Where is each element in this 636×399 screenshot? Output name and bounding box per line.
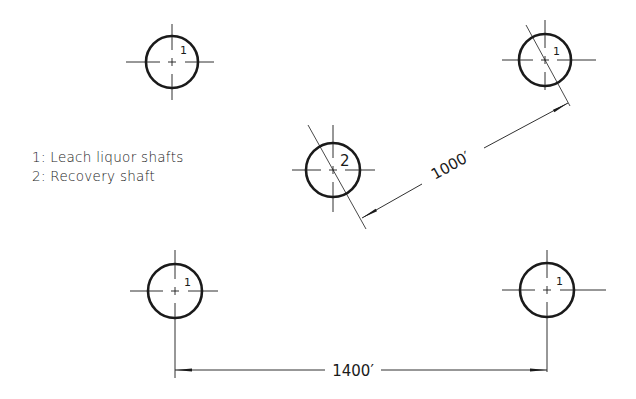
dimension-label-1000: 1000′ xyxy=(428,147,474,183)
shaft-label: 1 xyxy=(180,44,187,57)
shaft-bottom-right: 1 xyxy=(502,250,606,372)
shaft-center-recovery: 2 xyxy=(292,125,375,229)
shaft-label: 2 xyxy=(340,152,350,170)
shaft-label: 1 xyxy=(184,276,191,289)
shaft-layout-diagram: 1 1 2 1 xyxy=(0,0,636,399)
dimension-label-1400: 1400′ xyxy=(332,362,374,380)
shaft-label: 1 xyxy=(553,45,560,58)
dimension-1400: 1400′ xyxy=(175,362,547,380)
legend-item-leach-liquor-shafts: 1: Leach liquor shafts xyxy=(32,148,184,167)
shaft-top-right: 1 xyxy=(502,20,596,106)
shaft-bottom-left: 1 xyxy=(130,250,218,378)
legend-item-recovery-shaft: 2: Recovery shaft xyxy=(32,167,184,186)
dimension-1000: 1000′ xyxy=(362,103,568,218)
legend: 1: Leach liquor shafts 2: Recovery shaft xyxy=(32,148,184,186)
shaft-top-left: 1 xyxy=(126,24,214,100)
shaft-label: 1 xyxy=(556,275,563,288)
